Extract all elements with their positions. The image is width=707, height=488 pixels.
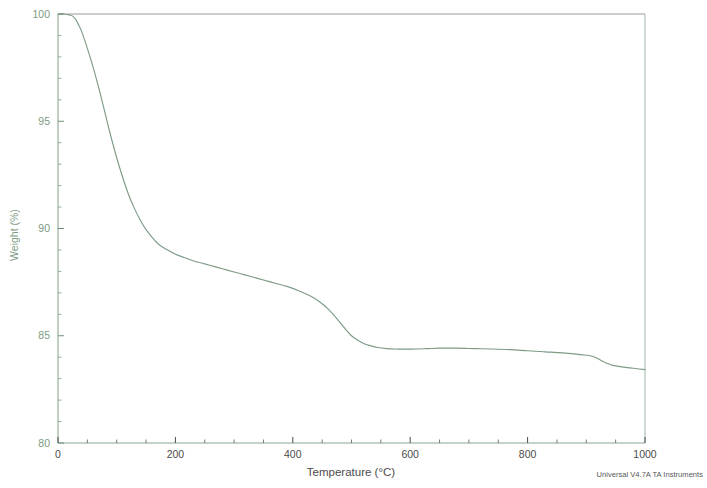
x-tick-label: 800 [519, 448, 537, 460]
plot-area-background [58, 14, 645, 443]
tga-thermogram-chart: 80859095100 02004006008001000 Temperatur… [0, 0, 707, 488]
x-tick-label: 200 [167, 448, 185, 460]
y-tick-label: 80 [38, 437, 50, 449]
chart-canvas: 80859095100 02004006008001000 Temperatur… [0, 0, 707, 488]
y-tick-label: 100 [32, 8, 50, 20]
software-credit-label: Universal V4.7A TA Instruments [596, 470, 703, 479]
x-tick-label: 600 [401, 448, 419, 460]
x-tick-label: 0 [55, 448, 61, 460]
x-tick-label: 1000 [633, 448, 657, 460]
y-axis-title: Weight (%) [8, 209, 20, 261]
x-tick-label: 400 [284, 448, 302, 460]
x-axis-title: Temperature (°C) [307, 466, 395, 478]
y-tick-label: 85 [38, 329, 50, 341]
y-axis-tick-labels: 80859095100 [32, 8, 50, 449]
x-axis-tick-labels: 02004006008001000 [55, 448, 657, 460]
y-tick-label: 90 [38, 222, 50, 234]
y-tick-label: 95 [38, 115, 50, 127]
